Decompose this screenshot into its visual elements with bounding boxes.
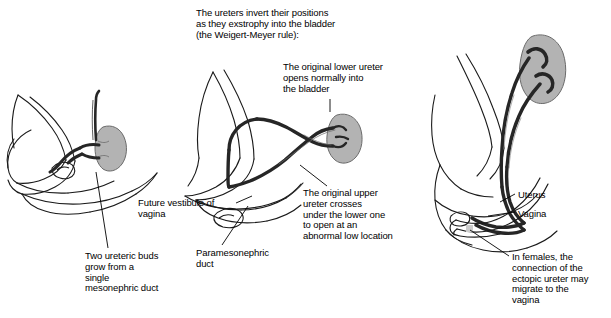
- right-kidney: [519, 35, 565, 104]
- middle-kidney: [327, 114, 362, 163]
- caption-vestibule: Future vestibule of vagina: [138, 198, 214, 220]
- middle-ureters: [228, 119, 335, 187]
- caption-paramesonephric: Paramesonephric duct: [196, 248, 269, 270]
- right-perineum-loop: [450, 212, 470, 226]
- caption-vagina: Vagina: [518, 209, 546, 220]
- leader-vestibule: [236, 196, 252, 203]
- left-kidney: [95, 126, 126, 171]
- caption-uterus: Uterus: [518, 190, 545, 201]
- leader-upper-ureter: [300, 165, 327, 186]
- left-duct-outline: [92, 100, 93, 140]
- caption-ureteric-buds: Two ureteric buds grow from a single mes…: [85, 251, 158, 294]
- left-panel-ureteric-buds: [7, 91, 157, 214]
- caption-females: In females, the connection of the ectopi…: [512, 252, 588, 306]
- leader-paramesonephric: [222, 206, 248, 245]
- caption-upper-ureter: The original upper ureter crosses under …: [303, 188, 393, 242]
- caption-lower-ureter: The original lower ureter opens normally…: [283, 62, 383, 94]
- caption-weigert-meyer: The ureters invert their positions as th…: [196, 8, 335, 40]
